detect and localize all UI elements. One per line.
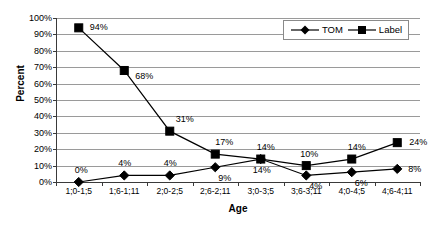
- y-tick-label: 40%: [6, 112, 52, 121]
- y-tick-mark: [53, 67, 57, 68]
- x-tick-label: 2;6-2;11: [193, 186, 239, 197]
- y-tick-label: 60%: [6, 80, 52, 89]
- y-tick-label: 80%: [6, 47, 52, 56]
- chart-container: Percent 100%90%80%70%60%50%40%30%20%10%0…: [0, 0, 431, 227]
- y-tick-label: 0%: [6, 178, 52, 187]
- legend-square-icon: [347, 24, 377, 36]
- y-tick-mark: [53, 149, 57, 150]
- x-tick-mark: [420, 182, 421, 186]
- legend-entry-tom[interactable]: TOM: [290, 24, 343, 36]
- gridline: [56, 51, 420, 52]
- y-tick-mark: [53, 18, 57, 19]
- x-tick-mark: [238, 182, 239, 186]
- y-tick-mark: [53, 133, 57, 134]
- x-tick-label: 3;6-3;11: [284, 186, 330, 197]
- x-tick-mark: [284, 182, 285, 186]
- x-axis-title: Age: [56, 203, 420, 214]
- data-label-label: 14%: [348, 143, 366, 152]
- x-tick-label: 1;0-1;5: [56, 186, 102, 197]
- y-tick-label: 30%: [6, 129, 52, 138]
- x-tick-label: 4;0-4;5: [329, 186, 375, 197]
- data-label-label: 94%: [90, 23, 108, 32]
- y-tick-mark: [53, 116, 57, 117]
- y-axis-tick-labels: 100%90%80%70%60%50%40%30%20%10%0%: [0, 18, 52, 183]
- x-tick-label: 1;6-1;11: [102, 186, 148, 197]
- gridline: [56, 133, 420, 134]
- data-label-label: 68%: [135, 72, 153, 81]
- x-axis-tick-labels: 1;0-1;51;6-1;112;0-2;52;6-2;113;0-3;53;6…: [56, 186, 420, 200]
- legend-entry-label[interactable]: Label: [347, 24, 402, 36]
- legend-label-tom: TOM: [322, 25, 343, 35]
- y-tick-label: 100%: [6, 14, 52, 23]
- x-tick-mark: [147, 182, 148, 186]
- data-label-label: 10%: [300, 150, 318, 159]
- data-label-tom: 4%: [164, 159, 177, 168]
- gridline: [56, 84, 420, 85]
- data-label-tom: 14%: [253, 166, 271, 175]
- chart-legend: TOM Label: [283, 20, 409, 40]
- data-label-label: 24%: [409, 138, 427, 147]
- gridline: [56, 100, 420, 101]
- y-tick-mark: [53, 51, 57, 52]
- y-tick-label: 70%: [6, 63, 52, 72]
- y-tick-mark: [53, 34, 57, 35]
- data-label-tom: 4%: [118, 159, 131, 168]
- y-tick-label: 10%: [6, 162, 52, 171]
- data-label-label: 14%: [257, 143, 275, 152]
- gridline: [56, 67, 420, 68]
- gridline: [56, 116, 420, 117]
- data-label-tom: 9%: [218, 174, 231, 183]
- gridline: [56, 18, 420, 19]
- legend-label-label: Label: [379, 25, 402, 35]
- data-label-label: 31%: [176, 115, 194, 124]
- x-tick-mark: [375, 182, 376, 186]
- gridline: [56, 166, 420, 167]
- legend-diamond-icon: [290, 24, 320, 36]
- y-tick-mark: [53, 100, 57, 101]
- x-tick-label: 3;0-3;5: [238, 186, 284, 197]
- y-tick-label: 90%: [6, 30, 52, 39]
- x-tick-mark: [193, 182, 194, 186]
- data-label-tom: 0%: [75, 166, 88, 175]
- y-tick-label: 20%: [6, 145, 52, 154]
- y-tick-label: 50%: [6, 96, 52, 105]
- x-tick-mark: [102, 182, 103, 186]
- x-tick-mark: [329, 182, 330, 186]
- x-tick-mark: [56, 182, 57, 186]
- data-label-tom: 8%: [408, 165, 421, 174]
- data-label-label: 17%: [215, 138, 233, 147]
- y-tick-mark: [53, 84, 57, 85]
- plot-area: [56, 18, 420, 182]
- y-tick-mark: [53, 166, 57, 167]
- x-tick-label: 4;6-4;11: [375, 186, 421, 197]
- x-tick-label: 2;0-2;5: [147, 186, 193, 197]
